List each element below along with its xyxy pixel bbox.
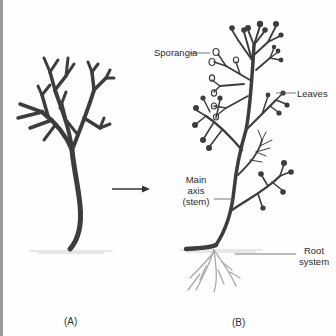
label-main-axis: Main axis (stem) — [178, 174, 214, 207]
figure-canvas: Sporangia Leaves Main axis (stem) Root s… — [0, 0, 336, 336]
arrow-icon — [112, 186, 150, 193]
label-root-line2: system — [294, 256, 334, 267]
plant-b — [180, 26, 290, 252]
caption-a: (A) — [64, 316, 77, 327]
label-main-axis-line1: Main — [178, 174, 214, 185]
label-root-line1: Root — [294, 245, 334, 256]
label-sporangia: Sporangia — [154, 47, 197, 58]
label-main-axis-line2: axis — [178, 185, 214, 196]
root-system — [188, 250, 240, 292]
label-leaves: Leaves — [297, 88, 328, 99]
label-root-system: Root system — [294, 245, 334, 267]
ground-a — [30, 251, 112, 253]
leader-lines — [190, 53, 296, 254]
plant-a — [18, 58, 114, 253]
caption-b: (B) — [232, 317, 245, 328]
label-main-axis-line3: (stem) — [178, 196, 214, 207]
